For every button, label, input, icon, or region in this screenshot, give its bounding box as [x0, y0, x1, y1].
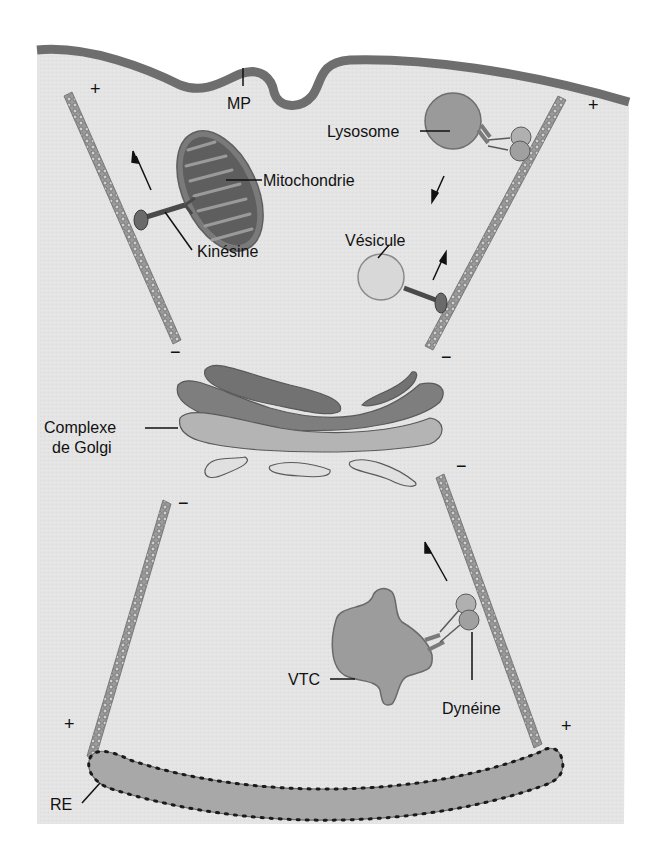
plus-top-left: +	[90, 80, 101, 98]
plus-bottom-right: +	[561, 717, 572, 735]
label-mp: MP	[227, 95, 251, 113]
label-mitochondrie: Mitochondrie	[263, 172, 355, 190]
minus-mid-right: −	[441, 348, 452, 366]
minus-mid-left: −	[170, 343, 181, 361]
minus-bottom-left: −	[178, 494, 189, 512]
label-re: RE	[50, 796, 72, 814]
plus-top-right: +	[588, 96, 599, 114]
label-lysosome: Lysosome	[327, 123, 399, 141]
label-kinesine: Kinésine	[197, 243, 258, 261]
plus-bottom-left: +	[64, 715, 75, 733]
label-golgi-line2: de Golgi	[52, 439, 112, 457]
label-dyneine: Dynéine	[442, 700, 501, 718]
label-golgi-line1: Complexe	[44, 419, 116, 437]
minus-golgi-right: −	[456, 457, 467, 475]
label-vesicule: Vésicule	[345, 232, 405, 250]
label-vtc: VTC	[288, 671, 320, 689]
